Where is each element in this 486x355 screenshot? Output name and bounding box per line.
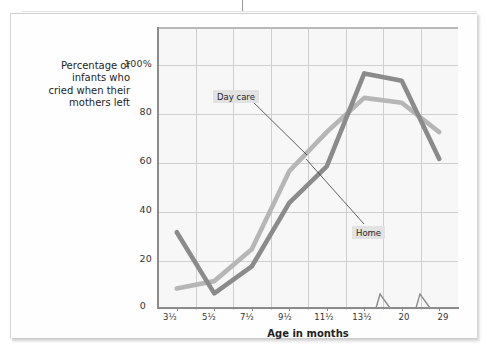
line-chart: Percentage of infants who cried when the… bbox=[0, 0, 486, 355]
x-tick-label-4: 11½ bbox=[314, 312, 333, 322]
x-tick-mark bbox=[364, 307, 365, 311]
y-tick-label-20: 20 bbox=[140, 253, 153, 264]
x-tick-label-1: 5½ bbox=[202, 312, 216, 322]
y-tick-label-80: 80 bbox=[140, 106, 153, 117]
leader-line-day-care bbox=[252, 101, 307, 155]
axis-break-icon-1 bbox=[370, 294, 396, 308]
x-tick-mark bbox=[252, 307, 253, 311]
y-tick-label-40: 40 bbox=[140, 204, 153, 215]
x-tick-label-7: 29 bbox=[437, 312, 448, 322]
x-tick-mark bbox=[289, 307, 290, 311]
y-tick-label-60: 60 bbox=[140, 155, 153, 166]
x-tick-mark bbox=[327, 307, 328, 311]
x-tick-mark bbox=[214, 307, 215, 311]
series-callout-home: Home bbox=[352, 226, 385, 239]
x-axis-label: Age in months bbox=[158, 328, 458, 339]
x-tick-label-0: 3½ bbox=[163, 312, 177, 322]
x-tick-mark bbox=[439, 307, 440, 311]
x-tick-mark bbox=[402, 307, 403, 311]
x-axis-break-marks bbox=[370, 292, 470, 314]
series-callout-day-care: Day care bbox=[213, 90, 259, 103]
x-tick-label-6: 20 bbox=[398, 312, 409, 322]
x-tick-label-2: 7½ bbox=[240, 312, 254, 322]
leader-line-home bbox=[306, 159, 364, 224]
y-axis-line bbox=[157, 27, 159, 308]
y-axis-ticks: 100% 80 60 40 20 0 bbox=[96, 0, 152, 355]
x-tick-label-3: 9½ bbox=[278, 312, 292, 322]
x-tick-mark bbox=[177, 307, 178, 311]
y-tick-label-0: 0 bbox=[140, 300, 146, 311]
y-tick-label-100: 100% bbox=[124, 58, 152, 69]
x-tick-label-5: 13½ bbox=[352, 312, 371, 322]
axis-break-icon-2 bbox=[410, 294, 436, 308]
